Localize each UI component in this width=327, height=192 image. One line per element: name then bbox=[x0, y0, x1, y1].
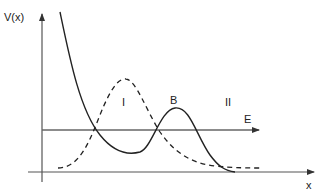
potential-curve bbox=[60, 12, 235, 172]
y-axis-label: V(x) bbox=[4, 12, 24, 23]
diagram-canvas bbox=[0, 0, 327, 192]
region-label-i: I bbox=[122, 97, 125, 108]
energy-label: E bbox=[244, 114, 251, 125]
region-label-ii: II bbox=[225, 97, 231, 108]
x-axis-label: x bbox=[306, 180, 312, 191]
barrier-label: B bbox=[170, 95, 177, 106]
